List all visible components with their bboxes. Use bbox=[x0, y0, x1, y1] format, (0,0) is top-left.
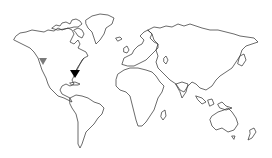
greenland bbox=[86, 14, 114, 44]
world-map bbox=[0, 0, 272, 158]
cuba bbox=[70, 82, 80, 85]
australia bbox=[210, 108, 238, 132]
new-zealand bbox=[248, 128, 256, 140]
marker-west-coast[interactable] bbox=[39, 58, 47, 65]
indonesia bbox=[196, 96, 232, 110]
india bbox=[176, 82, 188, 98]
british-isles bbox=[124, 46, 129, 53]
tasmania bbox=[232, 136, 235, 139]
baffin-island bbox=[74, 28, 84, 38]
caspian-sea bbox=[164, 56, 168, 64]
africa bbox=[116, 68, 164, 126]
japan bbox=[238, 54, 246, 66]
madagascar bbox=[161, 110, 166, 120]
north-america bbox=[14, 28, 88, 102]
marker-southeast[interactable] bbox=[70, 70, 80, 78]
south-america bbox=[70, 95, 104, 148]
iceland bbox=[116, 37, 122, 41]
